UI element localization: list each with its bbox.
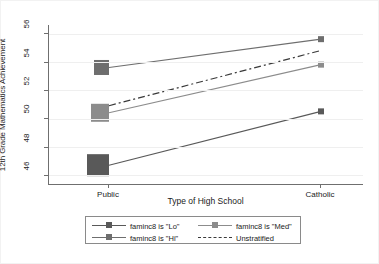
legend-marker-swatch [212,222,218,228]
legend-key [92,233,126,243]
legend-key [92,221,126,231]
grid-line [49,62,363,63]
y-tick-label: 56 [22,20,31,44]
legend-item[interactable]: faminc8 is "Hi" [92,232,178,244]
series-line [109,65,321,113]
legend-marker-swatch [106,234,112,240]
series-layer [49,25,364,185]
legend-label: faminc8 is "Lo" [130,222,180,231]
legend-label: Unstratified [236,234,274,243]
grid-line [49,34,363,35]
y-tick-label: 46 [22,162,31,186]
data-point-marker [318,108,324,114]
x-tick-mark [108,185,109,188]
legend-label: faminc8 is "Med" [236,222,292,231]
series-line [109,39,321,67]
x-axis-title: Type of High School [48,196,363,206]
legend-key [198,221,232,231]
data-point-marker [318,36,324,42]
legend-key [198,233,232,243]
grid-line [49,90,363,91]
grid-line [49,147,363,148]
series-2 [91,62,324,122]
chart-figure: 12th Grade Mathematics Achievement 46485… [0,0,379,264]
legend-marker-swatch [106,222,112,228]
legend-line-swatch [198,237,232,238]
y-tick-label: 48 [22,133,31,157]
grid-line [49,119,363,120]
x-tick-mark [320,185,321,188]
y-tick-label: 50 [22,105,31,129]
series-line [109,50,321,105]
legend-item[interactable]: faminc8 is "Lo" [92,220,180,232]
data-point-marker [87,154,109,176]
y-axis-title: 12th Grade Mathematics Achievement [0,25,12,185]
chart-legend: faminc8 is "Lo"faminc8 is "Med"faminc8 i… [85,216,301,244]
series-3 [94,36,324,75]
grid-line [49,175,363,176]
y-tick-label: 54 [22,48,31,72]
series-4 [109,50,321,105]
y-tick-label: 52 [22,77,31,101]
legend-item[interactable]: faminc8 is "Med" [198,220,292,232]
legend-item[interactable]: Unstratified [198,232,274,244]
plot-area [48,25,363,185]
legend-label: faminc8 is "Hi" [130,234,178,243]
